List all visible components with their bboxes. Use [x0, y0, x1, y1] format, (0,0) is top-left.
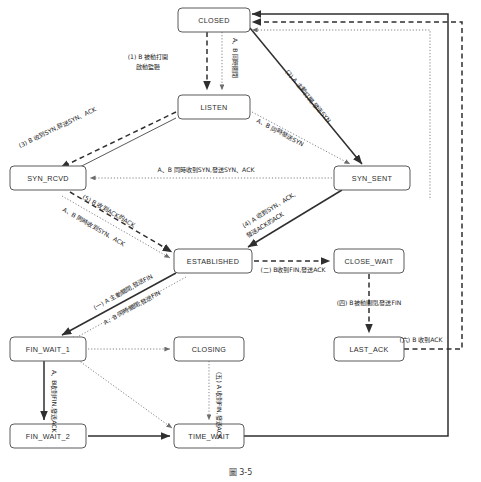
label-closed-to-syn-sent: (2) A 主動打開,發送SYN [283, 68, 332, 124]
label-established-to-fin-wait-1: (一) A 主動關閉,發送FIN [92, 272, 154, 311]
state-nodes: CLOSED LISTEN SYN_RCVD SYN_SENT ESTABLIS… [10, 8, 410, 448]
state-label-fin-wait-1: FIN_WAIT_1 [26, 345, 70, 354]
edge-time-wait-to-closed [244, 14, 448, 436]
edge-simultaneous-close-rail [252, 30, 430, 110]
state-established[interactable]: ESTABLISHED [174, 249, 252, 273]
edge-established-to-fin-wait-1 [62, 273, 176, 335]
state-label-syn-rcvd: SYN_RCVD [27, 174, 69, 183]
state-syn-rcvd[interactable]: SYN_RCVD [10, 166, 86, 190]
state-last-ack[interactable]: LAST_ACK [334, 337, 404, 361]
state-label-established: ESTABLISHED [187, 257, 239, 266]
label-last-ack-to-closed: (六) B 收到ACK [399, 336, 443, 344]
state-time-wait[interactable]: TIME_WAIT [174, 424, 244, 448]
label-closed-to-listen-line2: 啟動監聽 [136, 63, 160, 71]
tcp-state-diagram: CLOSED LISTEN SYN_RCVD SYN_SENT ESTABLIS… [0, 0, 481, 482]
edge-syn-rcvd-to-established-simultaneous [62, 196, 170, 258]
figure-caption: 圖 3-5 [0, 466, 481, 477]
diagram-canvas: CLOSED LISTEN SYN_RCVD SYN_SENT ESTABLIS… [0, 0, 481, 482]
label-listen-to-syn-sent: A、B 同時發送SYN [255, 117, 305, 149]
state-fin-wait-2[interactable]: FIN_WAIT_2 [10, 424, 86, 448]
state-close-wait[interactable]: CLOSE_WAIT [334, 249, 404, 273]
edge-listen-to-syn-rcvd-secondary [70, 118, 176, 172]
state-label-listen: LISTEN [201, 103, 228, 112]
state-label-last-ack: LAST_ACK [349, 345, 388, 354]
state-listen[interactable]: LISTEN [178, 95, 250, 119]
state-label-fin-wait-2: FIN_WAIT_2 [26, 432, 70, 441]
label-syn-sent-to-syn-rcvd: A、B 同時收到SYN,發送SYN、ACK [158, 166, 256, 174]
state-closing[interactable]: CLOSING [174, 337, 244, 361]
state-label-closed: CLOSED [198, 16, 229, 25]
label-close-wait-to-last-ack: (四) B被動關閉,發送FIN [337, 299, 402, 307]
label-simultaneous-close-vertical: A、B 同時關閉 [231, 38, 239, 78]
state-syn-sent[interactable]: SYN_SENT [334, 166, 410, 190]
state-label-closing: CLOSING [192, 345, 227, 354]
edge-syn-sent-to-established [248, 190, 342, 247]
label-established-to-close-wait: (二) B收到FIN,發送ACK [261, 266, 327, 274]
label-closing-to-time-wait: (五) A 收到FIN,發送ACK [215, 372, 223, 440]
state-closed[interactable]: CLOSED [178, 8, 250, 32]
state-fin-wait-1[interactable]: FIN_WAIT_1 [10, 337, 86, 361]
label-fin-wait-1-to-fin-wait-2: A、B收到FIN,發送ACK [50, 370, 58, 433]
label-closed-to-listen-line1: (1) B 被動打開 [128, 53, 169, 61]
label-listen-to-syn-rcvd: (3) B 收到SYN,發送SYN、ACK [17, 105, 98, 150]
edge-fin-wait-1-to-time-wait [78, 360, 172, 428]
state-label-close-wait: CLOSE_WAIT [344, 257, 393, 266]
state-label-syn-sent: SYN_SENT [352, 174, 393, 183]
